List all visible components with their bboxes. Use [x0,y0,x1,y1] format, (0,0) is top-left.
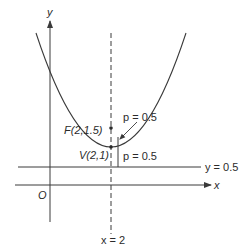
vertex-point [109,145,113,149]
y-axis-label: y [46,6,54,18]
x-axis-label: x [213,179,220,191]
p-focus-label: p = 0.5 [123,111,157,123]
parabola-diagram: y x O y = 0.5 x = 2 F(2,1.5) V(2,1) p = … [0,0,248,246]
origin-label: O [38,189,47,201]
axis-of-symmetry-label: x = 2 [101,234,125,246]
directrix-label: y = 0.5 [205,161,238,173]
focus-label: F(2,1.5) [64,124,103,136]
focus-point [109,126,113,130]
vertex-label: V(2,1) [79,149,109,161]
p-directrix-label: p = 0.5 [123,150,157,162]
